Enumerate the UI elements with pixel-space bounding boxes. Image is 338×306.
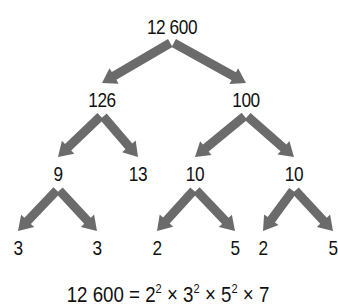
factorization-equation: 12 600 = 22 × 32 × 52 × 7 <box>66 282 269 306</box>
tree-node: 10 <box>285 163 303 184</box>
arrow-n100-to-n10b <box>245 113 295 157</box>
arrow-n10a-to-n5a <box>193 187 235 231</box>
equation-equals: = <box>129 282 140 306</box>
tree-node: 126 <box>88 89 116 110</box>
arrow-n12600-to-n100 <box>172 39 246 84</box>
arrow-n12600-to-n126 <box>102 39 173 84</box>
tree-node: 2 <box>152 237 161 258</box>
times-sign: × <box>242 282 253 306</box>
arrow-n126-to-n13 <box>100 114 138 157</box>
arrow-n10a-to-n2a <box>157 188 197 232</box>
equation-term-3: 52 <box>221 282 238 306</box>
equation-term-1: 22 <box>145 282 162 306</box>
times-sign: × <box>166 282 177 306</box>
tree-node: 10 <box>186 163 204 184</box>
arrow-n100-to-n10a <box>195 113 247 157</box>
equation-term-4: 7 <box>258 282 268 306</box>
arrow-n9-to-n3a <box>18 187 60 231</box>
arrow-n10b-to-n2b <box>263 188 296 231</box>
arrow-n126-to-n9 <box>58 113 104 157</box>
tree-node: 12 600 <box>147 16 197 37</box>
tree-node: 100 <box>232 89 260 110</box>
times-sign: × <box>204 282 215 306</box>
tree-node: 2 <box>258 237 267 258</box>
tree-node: 5 <box>230 237 239 258</box>
tree-node: 5 <box>328 237 337 258</box>
tree-node: 13 <box>129 163 147 184</box>
tree-node: 3 <box>13 237 22 258</box>
tree-node: 9 <box>53 163 62 184</box>
tree-node: 3 <box>92 237 101 258</box>
equation-term-2: 32 <box>183 282 200 306</box>
equation-lhs: 12 600 <box>66 282 123 306</box>
arrow-n10b-to-n5b <box>292 187 333 231</box>
arrow-n9-to-n3b <box>56 187 97 231</box>
